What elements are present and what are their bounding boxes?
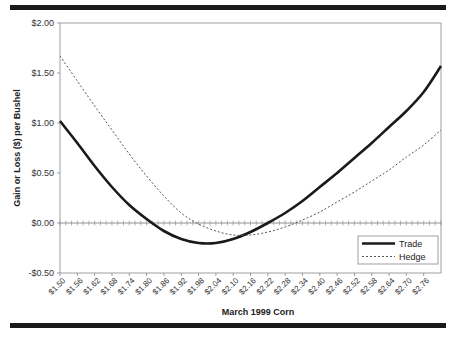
hedge-line [60, 56, 441, 235]
x-tick-label: $2.10 [220, 276, 241, 297]
x-tick-label: $2.52 [341, 276, 362, 297]
x-tick-label: $2.40 [307, 276, 328, 297]
x-tick-label: $1.62 [82, 276, 103, 297]
x-tick-label: $2.76 [411, 276, 432, 297]
bottom-rule [10, 323, 446, 328]
y-axis-title: Gain or Loss ($) per Bushel [12, 89, 22, 207]
legend: Trade Hedge [358, 236, 438, 264]
x-tick-label: $1.74 [116, 276, 137, 297]
x-tick-label: $2.58 [359, 276, 380, 297]
zero-baseline [60, 221, 441, 226]
y-tick-label: $0.50 [31, 168, 54, 178]
x-tick-label: $2.64 [376, 276, 397, 297]
y-tick-label: $2.00 [31, 18, 54, 28]
x-axis-title: March 1999 Corn [222, 307, 295, 317]
y-axis: $2.00$1.50$1.00$0.50$0.00-$0.50 [28, 18, 60, 278]
x-tick-label: $1.98 [185, 276, 206, 297]
x-tick-label: $1.56 [64, 276, 85, 297]
x-tick-label: $2.34 [289, 276, 310, 297]
y-tick-label: $1.00 [31, 118, 54, 128]
y-tick-label: -$0.50 [28, 268, 54, 278]
line-chart: $2.00$1.50$1.00$0.50$0.00-$0.50 $1.50$1.… [0, 0, 457, 338]
x-tick-label: $1.86 [151, 276, 172, 297]
x-tick-label: $2.70 [393, 276, 414, 297]
x-tick-label: $1.80 [133, 276, 154, 297]
legend-trade-label: Trade [399, 239, 422, 249]
x-tick-label: $2.04 [203, 276, 224, 297]
x-tick-label: $2.16 [237, 276, 258, 297]
series-lines [60, 56, 441, 244]
legend-hedge-label: Hedge [399, 252, 426, 262]
x-tick-label: $2.46 [324, 276, 345, 297]
x-axis: $1.50$1.56$1.62$1.68$1.74$1.80$1.86$1.92… [47, 273, 432, 297]
x-tick-label: $1.50 [47, 276, 68, 297]
x-tick-label: $2.28 [272, 276, 293, 297]
x-tick-label: $2.22 [255, 276, 276, 297]
x-tick-label: $1.68 [99, 276, 120, 297]
y-tick-label: $0.00 [31, 218, 54, 228]
trade-line [60, 66, 441, 244]
x-tick-label: $1.92 [168, 276, 189, 297]
y-tick-label: $1.50 [31, 68, 54, 78]
